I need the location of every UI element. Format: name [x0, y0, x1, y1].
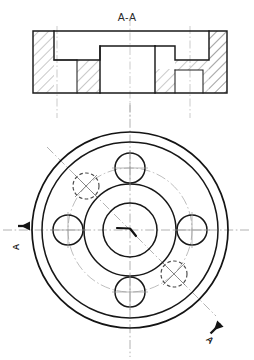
hole-lower-right: [161, 261, 187, 287]
section-marker-bottom-right-label: A: [204, 334, 216, 346]
hole-right: [174, 212, 210, 248]
hole-upper-left: [73, 173, 99, 199]
technical-drawing-svg: A-A: [0, 0, 254, 360]
section-marker-bottom-right: A: [200, 320, 226, 346]
keyway-mark: [117, 228, 136, 236]
plan-view: [3, 103, 249, 357]
section-marker-left: A: [11, 222, 30, 251]
section-left-step-profile: [54, 31, 155, 60]
page-title: A-A: [118, 11, 137, 23]
drawing-canvas: A-A: [0, 0, 254, 360]
hole-left: [50, 212, 86, 248]
hole-bottom: [112, 274, 148, 310]
section-right-step-profile: [155, 31, 209, 60]
section-marker-left-label: A: [11, 243, 21, 250]
hole-top: [112, 150, 148, 186]
